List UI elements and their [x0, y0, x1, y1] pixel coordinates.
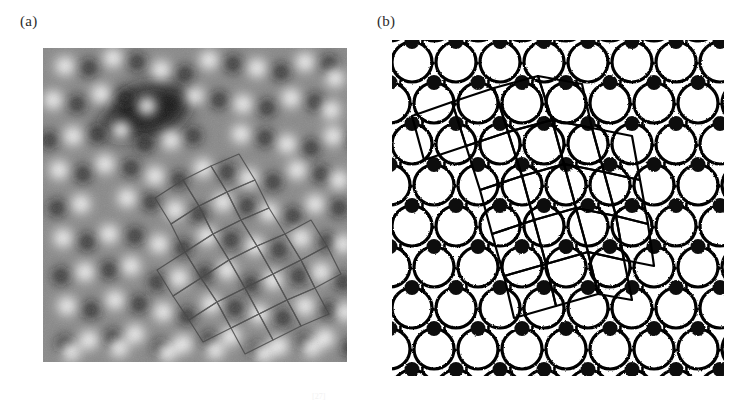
panel-a-stm-image	[43, 48, 347, 362]
citation-mark: [27]	[312, 392, 325, 401]
panel-label-b: (b)	[377, 13, 395, 30]
stm-image-canvas	[43, 48, 347, 362]
panel-b-structure-model	[392, 40, 724, 376]
figure-root: (a) (b) [27]	[0, 0, 744, 405]
panel-label-a: (a)	[20, 13, 38, 30]
structure-model-canvas	[392, 40, 724, 376]
